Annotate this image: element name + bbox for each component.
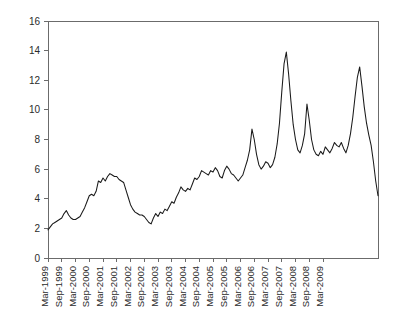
data-series-group <box>48 52 378 230</box>
x-tick-label: Mar-2002 <box>122 266 133 307</box>
y-tick-label: 8 <box>34 134 40 145</box>
x-axis-ticks <box>48 258 323 262</box>
data-line-series-1 <box>48 52 378 230</box>
x-tick-label: Sep-2008 <box>300 266 311 307</box>
x-tick-label: Mar-2009 <box>314 266 325 307</box>
y-tick-label: 12 <box>29 75 41 86</box>
x-tick-label: Mar-1999 <box>39 266 50 307</box>
x-tick-label: Mar-2004 <box>177 266 188 307</box>
x-tick-label: Sep-2005 <box>218 266 229 307</box>
x-tick-label: Mar-2005 <box>204 266 215 307</box>
chart-canvas: 0246810121416 Mar-1999Sep-1999Mar-2000Se… <box>0 0 401 332</box>
y-tick-label: 2 <box>34 223 40 234</box>
x-tick-label: Sep-1999 <box>53 266 64 307</box>
x-tick-label: Sep-2002 <box>135 266 146 307</box>
x-tick-label: Sep-2004 <box>190 266 201 307</box>
y-tick-label: 14 <box>29 45 41 56</box>
x-tick-label: Mar-2001 <box>94 266 105 307</box>
line-chart: 0246810121416 Mar-1999Sep-1999Mar-2000Se… <box>0 0 401 332</box>
x-tick-label: Mar-2008 <box>287 266 298 307</box>
y-tick-label: 10 <box>29 104 41 115</box>
y-tick-label: 4 <box>34 193 40 204</box>
y-tick-label: 16 <box>29 16 41 27</box>
x-axis-labels: Mar-1999Sep-1999Mar-2000Sep-2000Mar-2001… <box>39 266 325 307</box>
y-axis-ticks <box>44 21 48 258</box>
plot-frame <box>48 21 378 258</box>
x-tick-label: Sep-2001 <box>108 266 119 307</box>
x-tick-label: Mar-2007 <box>259 266 270 307</box>
x-tick-label: Mar-2006 <box>232 266 243 307</box>
y-tick-label: 0 <box>34 253 40 264</box>
x-tick-label: Mar-2003 <box>149 266 160 307</box>
x-tick-label: Sep-2000 <box>80 266 91 307</box>
x-tick-label: Sep-2006 <box>245 266 256 307</box>
x-tick-label: Mar-2000 <box>67 266 78 307</box>
y-tick-label: 6 <box>34 164 40 175</box>
x-tick-label: Sep-2007 <box>273 266 284 307</box>
y-axis-labels: 0246810121416 <box>29 16 41 264</box>
x-tick-label: Sep-2003 <box>163 266 174 307</box>
